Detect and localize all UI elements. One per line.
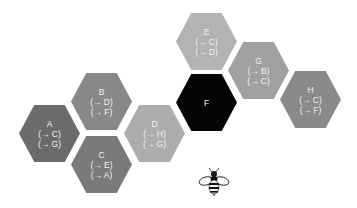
node-edge: (→ G) (38, 139, 61, 149)
bee-icon (198, 166, 230, 198)
node-label: E (204, 27, 210, 37)
node-edge: (→ E) (90, 160, 112, 170)
node-edge: (→ C) (299, 95, 322, 105)
hex-node-e: E (→ C) (→ D) (176, 13, 237, 70)
node-edge: (→ B) (247, 66, 269, 76)
node-edge: (→ D) (90, 97, 113, 107)
node-edge: (→ C) (38, 129, 61, 139)
hex-node-d: D (→ H) (→ G) (124, 105, 185, 162)
node-edge: (→ A) (91, 170, 113, 180)
hex-node-a: A (→ C) (→ G) (19, 105, 80, 162)
node-edge: (→ F) (300, 105, 322, 115)
node-label: C (98, 150, 104, 160)
node-label: B (99, 87, 105, 97)
node-edge: (→ H) (143, 129, 166, 139)
node-edge: (→ C) (195, 37, 218, 47)
node-edge: (→ C) (247, 76, 270, 86)
hex-node-g: G (→ B) (→ C) (228, 42, 289, 99)
node-label: F (204, 98, 209, 108)
node-label: H (307, 85, 313, 95)
node-edge: (→ D) (195, 47, 218, 57)
hex-node-b: B (→ D) (→ F) (71, 73, 132, 130)
node-label: A (47, 119, 53, 129)
node-label: D (151, 119, 157, 129)
node-edge: (→ F) (91, 107, 113, 117)
hex-node-c: C (→ E) (→ A) (71, 136, 132, 193)
node-label: G (255, 56, 262, 66)
hex-node-f: F (176, 74, 237, 131)
node-edge: (→ G) (143, 139, 166, 149)
hex-node-h: H (→ C) (→ F) (280, 71, 341, 128)
